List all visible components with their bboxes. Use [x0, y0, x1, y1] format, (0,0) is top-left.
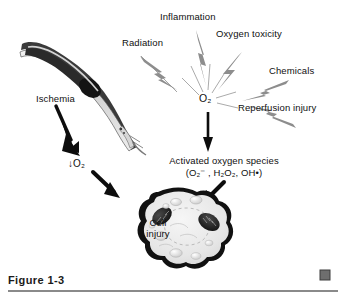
- label-reperfusion-injury: Reperfusion injury: [238, 103, 316, 114]
- bolt-chemicals: [242, 80, 289, 101]
- bolt-oxygen-toxicity: [218, 52, 242, 90]
- label-decreased-oxygen: ↓O₂: [68, 158, 85, 170]
- cell-injury-line-2: injury: [136, 229, 180, 240]
- figure-container: Inflammation Oxygen toxicity Radiation C…: [0, 0, 346, 300]
- label-oxygen-center: O₂: [199, 92, 211, 104]
- label-oxygen-toxicity: Oxygen toxicity: [216, 29, 282, 40]
- label-inflammation: Inflammation: [160, 12, 216, 23]
- label-radiation: Radiation: [122, 38, 163, 49]
- diagram-illustration: [0, 0, 346, 300]
- figure-caption: Figure 1-3: [8, 274, 65, 287]
- ischemia-arrow: [56, 106, 80, 156]
- aos-line-2: (O₂⁻ , H₂O₂, OH•): [168, 168, 280, 179]
- label-chemicals: Chemicals: [269, 66, 314, 77]
- label-activated-oxygen-species: Activated oxygen species (O₂⁻ , H₂O₂, OH…: [168, 156, 280, 179]
- o2-to-species-arrow: [203, 112, 213, 152]
- aos-line-1: Activated oxygen species: [168, 156, 280, 167]
- caption-marker-square: [320, 270, 330, 280]
- label-ischemia: Ischemia: [36, 94, 75, 105]
- hypoxia-to-cell-arrow: [93, 172, 120, 198]
- bolt-inflammation: [196, 30, 206, 86]
- bolt-radiation: [140, 56, 177, 92]
- label-cell-injury: Cell injury: [136, 218, 180, 240]
